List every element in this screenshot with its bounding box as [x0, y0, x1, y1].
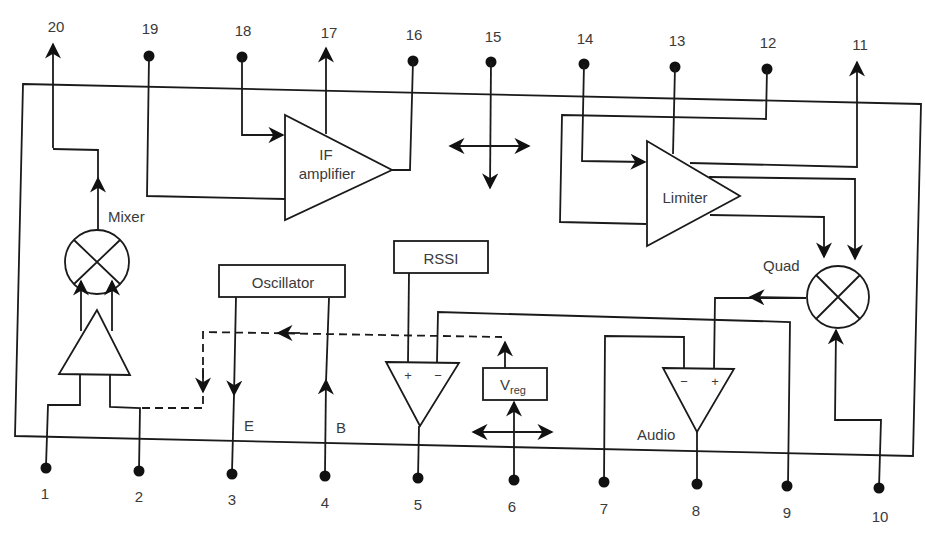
terminal-dot-3 [227, 469, 238, 480]
pin-label-11: 11 [852, 36, 868, 53]
audio-opamp: − + Audio [637, 368, 734, 443]
pin-label-18: 18 [235, 22, 252, 39]
rf-amplifier-block [59, 310, 130, 375]
if-amplifier-block: IF amplifier [285, 115, 392, 220]
pin-17: 17 [321, 24, 338, 134]
quad-detector-block: Quad [763, 257, 869, 328]
pin-label-15: 15 [485, 28, 502, 45]
pin-label-2: 2 [135, 488, 143, 505]
pin-label-7: 7 [600, 500, 608, 517]
pin-15: 15 [485, 28, 502, 68]
pin-label-8: 8 [692, 502, 700, 519]
plus-sign: + [404, 368, 412, 383]
rssi-block: RSSI [394, 241, 488, 273]
terminal-dot-10 [874, 483, 885, 494]
terminal-dot-7 [599, 477, 610, 488]
limiter-label: Limiter [662, 189, 707, 206]
mixer-block: Mixer [65, 208, 145, 294]
pin-13: 13 [669, 32, 686, 73]
pin-19: 19 [142, 20, 159, 62]
oscillator-label: Oscillator [252, 274, 315, 291]
rssi-opamp: + − [386, 362, 459, 426]
pin-label-1: 1 [41, 485, 49, 502]
plus-sign-audio: + [711, 374, 719, 389]
pin-label-14: 14 [577, 30, 594, 47]
pin-label-3: 3 [228, 491, 236, 508]
pin-label-5: 5 [414, 496, 422, 513]
pin-16: 16 [406, 26, 423, 67]
pin-label-9: 9 [783, 504, 791, 521]
terminal-dot-1 [41, 463, 52, 474]
terminal-dot-5 [413, 473, 424, 484]
terminal-dot-8 [692, 479, 703, 490]
pin-14: 14 [577, 30, 594, 70]
terminal-dot-6 [509, 475, 520, 486]
base-label: B [336, 419, 346, 436]
rssi-label: RSSI [423, 250, 458, 267]
pin-11: 11 [852, 36, 868, 166]
quad-label: Quad [763, 257, 800, 274]
pin-label-13: 13 [669, 32, 686, 49]
pin-label-16: 16 [406, 26, 423, 43]
pin-label-10: 10 [872, 508, 889, 525]
fm-receiver-block-diagram: 20 19 18 17 16 15 14 13 12 11 IF ampl [0, 0, 925, 533]
emitter-label: E [244, 417, 254, 434]
pin-12: 12 [760, 34, 777, 75]
pin-label-19: 19 [142, 20, 159, 37]
pin-label-6: 6 [508, 498, 516, 515]
pin-20: 20 [48, 18, 65, 148]
terminal-dot-4 [320, 471, 331, 482]
mixer-label: Mixer [108, 208, 145, 225]
pin-18: 18 [235, 22, 252, 63]
if-amplifier-label-2: amplifier [299, 165, 356, 182]
pin-15-bidirectional-arrows [450, 62, 529, 188]
vreg-block: Vreg [483, 368, 547, 400]
pin-label-4: 4 [321, 494, 329, 511]
terminal-dot-2 [134, 466, 145, 477]
terminal-dot-9 [782, 481, 793, 492]
pin-label-20: 20 [48, 18, 65, 35]
audio-label: Audio [637, 426, 675, 443]
limiter-block: Limiter [647, 141, 740, 246]
oscillator-block: Oscillator [219, 265, 345, 297]
minus-sign-audio: − [680, 374, 688, 389]
bottom-pins: 1 2 3 4 5 6 7 8 9 10 [41, 463, 889, 526]
pin-label-12: 12 [760, 34, 777, 51]
pin-label-17: 17 [321, 24, 338, 41]
minus-sign: − [434, 368, 442, 383]
if-amplifier-label-1: IF [319, 146, 332, 163]
